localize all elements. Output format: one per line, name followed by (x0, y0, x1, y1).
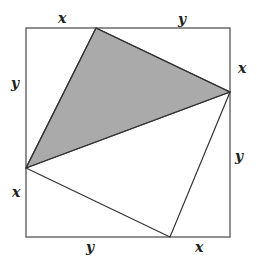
label-right-top: x (237, 60, 247, 76)
label-bottom-right: x (194, 239, 204, 255)
label-bottom-left: y (85, 239, 95, 255)
pythagoras-square-diagram: x y x y y x y x (0, 0, 257, 266)
shaded-triangle (26, 28, 230, 168)
label-left-top: y (10, 75, 20, 91)
label-top-right: y (177, 11, 187, 27)
label-right-bottom: y (234, 148, 244, 164)
label-left-bottom: x (11, 184, 21, 200)
label-top-left: x (57, 10, 67, 26)
